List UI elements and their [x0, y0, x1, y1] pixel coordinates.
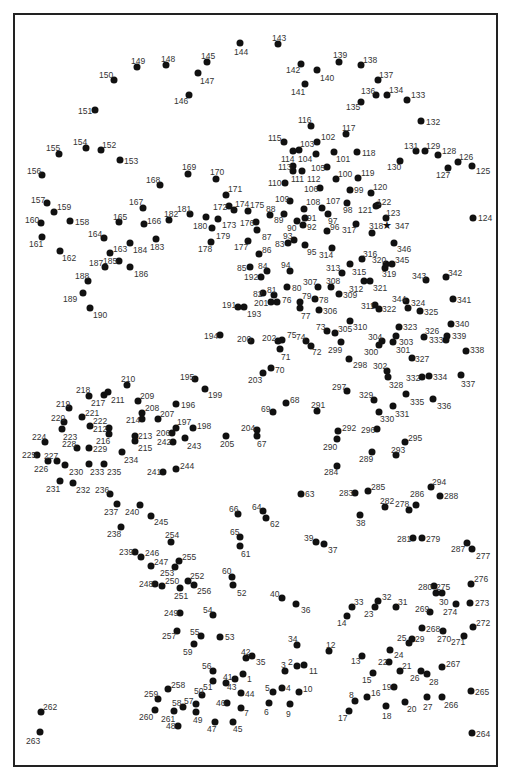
dot-number-label: 337: [461, 380, 475, 389]
puzzle-dot: [417, 308, 424, 315]
puzzle-dot: [268, 299, 275, 306]
dot-number-label: 119: [361, 169, 375, 178]
dot-number-label: 194: [204, 332, 218, 341]
puzzle-dot: [336, 291, 343, 298]
dot-number-label: 303: [399, 338, 413, 347]
dot-number-label: 244: [180, 462, 194, 471]
puzzle-dot: [301, 662, 308, 669]
dot-number-label: 59: [183, 648, 192, 657]
dot-number-label: 315: [352, 268, 366, 277]
dot-number-label: 107: [326, 197, 340, 206]
dot-number-label: 148: [161, 55, 175, 64]
dot-number-label: 181: [177, 205, 191, 214]
dot-number-label: 99: [354, 186, 363, 195]
puzzle-dot: [396, 324, 403, 331]
dot-number-label: 340: [455, 320, 469, 329]
dot-number-label: 261: [161, 715, 175, 724]
dot-number-label: 308: [326, 277, 340, 286]
puzzle-dot: [435, 152, 442, 159]
puzzle-dot: [375, 598, 382, 605]
dot-number-label: 160: [25, 216, 39, 225]
dot-number-label: 295: [408, 434, 422, 443]
dot-number-label: 129: [426, 142, 440, 151]
puzzle-dot: [67, 218, 74, 225]
dot-number-label: 233: [90, 468, 104, 477]
dot-number-label: 75: [287, 331, 296, 340]
puzzle-dot: [258, 274, 265, 281]
dot-number-label: 243: [187, 442, 201, 451]
dot-number-label: 284: [324, 468, 338, 477]
dot-number-label: 242: [157, 438, 171, 447]
dot-number-label: 31: [398, 598, 407, 607]
dot-number-label: 230: [69, 468, 83, 477]
puzzle-dot: [419, 625, 426, 632]
dot-number-label: 317: [342, 226, 356, 235]
dot-number-label: 332: [406, 374, 420, 383]
dot-number-label: 214: [126, 416, 140, 425]
dot-number-label: 266: [444, 701, 458, 710]
dot-number-label: 172: [213, 203, 227, 212]
dot-number-label: 258: [171, 681, 185, 690]
dot-number-label: 177: [234, 243, 248, 252]
dot-number-label: 278: [395, 500, 409, 509]
puzzle-dot: [469, 730, 476, 737]
dot-number-label: 100: [338, 170, 352, 179]
dot-number-label: 161: [29, 240, 43, 249]
dot-number-label: 274: [443, 608, 457, 617]
dot-number-label: 311: [361, 302, 375, 311]
dot-number-label: 277: [476, 552, 490, 561]
dot-number-label: 123: [386, 209, 400, 218]
dot-number-label: 189: [63, 295, 77, 304]
dot-number-label: 120: [373, 183, 387, 192]
dot-number-label: 207: [160, 410, 174, 419]
dot-number-label: 219: [56, 400, 70, 409]
dot-number-label: 110: [268, 179, 282, 188]
dot-number-label: 304: [368, 333, 382, 342]
dot-number-label: 72: [312, 348, 321, 357]
dot-number-label: 301: [396, 346, 410, 355]
dot-number-label: 215: [138, 444, 152, 453]
puzzle-dot: [383, 703, 390, 710]
dot-number-label: 171: [228, 185, 242, 194]
dot-number-label: 89: [274, 216, 283, 225]
dot-number-label: 115: [268, 134, 282, 143]
puzzle-dot: [430, 396, 437, 403]
dot-number-label: 319: [382, 270, 396, 279]
dot-number-label: 135: [346, 103, 360, 112]
dot-number-label: 329: [359, 391, 373, 400]
dot-number-label: 58: [172, 699, 181, 708]
dot-number-label: 156: [27, 167, 41, 176]
puzzle-dot: [283, 400, 290, 407]
dot-number-label: 245: [154, 518, 168, 527]
dot-number-label: 254: [165, 531, 179, 540]
dot-number-label: 147: [200, 77, 214, 86]
puzzle-dot: [287, 701, 294, 708]
dot-number-label: 158: [75, 218, 89, 227]
dot-number-label: 180: [193, 222, 207, 231]
puzzle-dot: [313, 151, 320, 158]
dot-number-label: 307: [303, 278, 317, 287]
puzzle-dot: [387, 647, 394, 654]
dot-number-label: 125: [476, 167, 490, 176]
dot-number-label: 226: [34, 465, 48, 474]
dot-number-label: 53: [225, 633, 234, 642]
dot-number-label: 275: [436, 583, 450, 592]
dot-number-label: 208: [145, 404, 159, 413]
puzzle-dot: [437, 493, 444, 500]
dot-number-label: 236: [95, 486, 109, 495]
dot-number-label: 142: [286, 66, 300, 75]
dot-number-label: 264: [476, 730, 490, 739]
dot-number-label: 24: [394, 651, 403, 660]
dot-number-label: 287: [451, 545, 465, 554]
puzzle-dot: [203, 214, 210, 221]
dot-number-label: 169: [182, 163, 196, 172]
puzzle-dot: [62, 462, 69, 469]
dot-number-label: 270: [437, 635, 451, 644]
dot-number-label: 224: [32, 433, 46, 442]
dot-number-label: 228: [62, 440, 76, 449]
dot-number-label: 269: [415, 605, 429, 614]
dot-number-label: 13: [351, 657, 360, 666]
dot-number-label: 282: [380, 497, 394, 506]
dot-number-label: 23: [364, 610, 373, 619]
dot-number-label: 341: [457, 296, 471, 305]
